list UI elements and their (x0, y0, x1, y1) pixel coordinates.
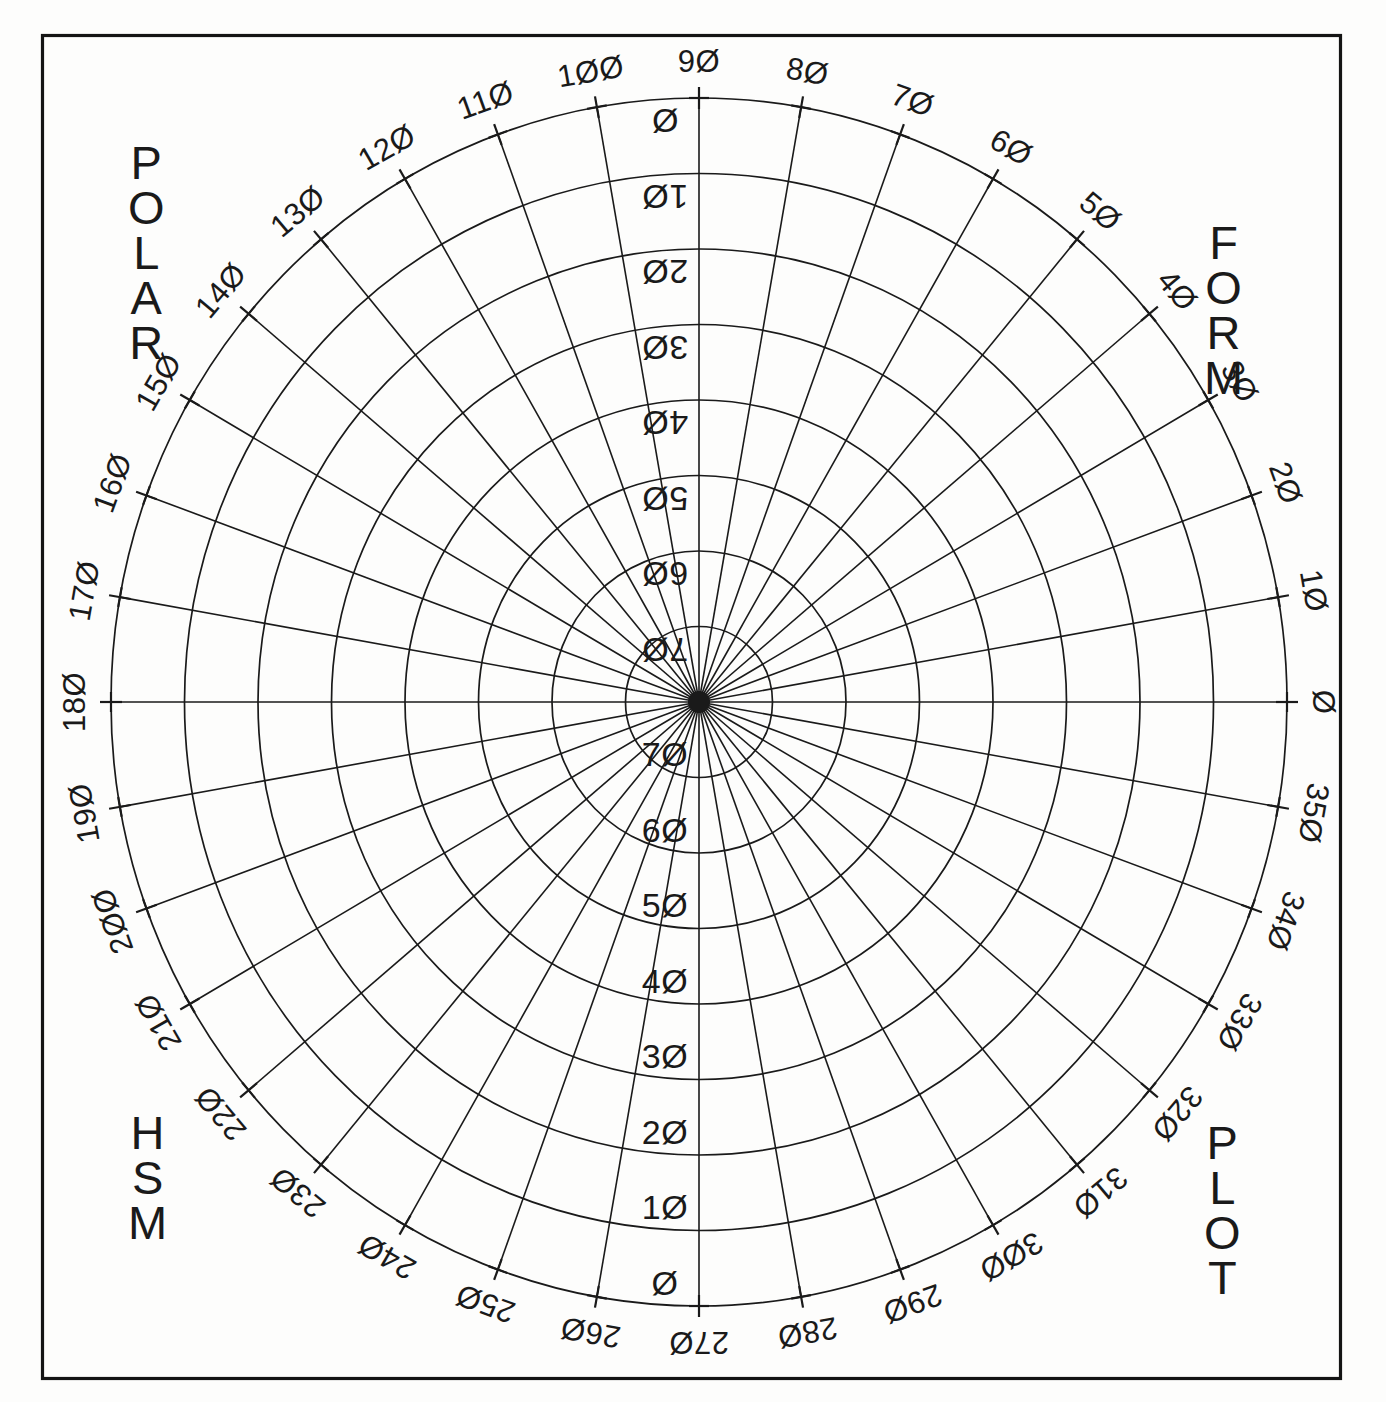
svg-text:16Ø: 16Ø (86, 449, 139, 517)
svg-text:2Ø: 2Ø (642, 1113, 688, 1151)
svg-text:6Ø: 6Ø (642, 555, 688, 593)
corner-label-polar: P O L A R (128, 140, 166, 366)
svg-text:Ø: Ø (652, 102, 679, 140)
svg-text:3ØØ: 3ØØ (973, 1225, 1048, 1289)
svg-text:3Ø: 3Ø (642, 1037, 688, 1075)
svg-text:21Ø: 21Ø (128, 987, 188, 1057)
svg-text:28Ø: 28Ø (775, 1310, 840, 1355)
polar-grid-svg: Ø1Ø2Ø3Ø4Ø5Ø6Ø7Ø8Ø9Ø1ØØ11Ø12Ø13Ø14Ø15Ø16Ø… (0, 0, 1386, 1402)
svg-text:Ø: Ø (652, 1264, 679, 1302)
polar-origin-hub (688, 691, 710, 713)
svg-text:33Ø: 33Ø (1209, 987, 1269, 1057)
svg-text:12Ø: 12Ø (352, 117, 422, 177)
svg-text:1Ø: 1Ø (642, 1188, 688, 1226)
svg-text:25Ø: 25Ø (451, 1277, 519, 1330)
svg-text:23Ø: 23Ø (263, 1160, 332, 1225)
svg-text:2ØØ: 2ØØ (84, 884, 140, 959)
svg-text:9Ø: 9Ø (678, 44, 720, 79)
svg-text:6Ø: 6Ø (984, 122, 1038, 173)
svg-text:3Ø: 3Ø (642, 329, 688, 367)
svg-text:5Ø: 5Ø (1073, 184, 1128, 238)
corner-label-plot: P L O T (1204, 1120, 1242, 1300)
svg-text:31Ø: 31Ø (1066, 1160, 1135, 1225)
svg-text:34Ø: 34Ø (1259, 887, 1312, 955)
svg-text:2Ø: 2Ø (642, 253, 688, 291)
svg-text:4Ø: 4Ø (642, 404, 688, 442)
svg-text:35Ø: 35Ø (1291, 781, 1336, 846)
svg-text:27Ø: 27Ø (669, 1325, 729, 1360)
svg-text:11Ø: 11Ø (452, 74, 518, 127)
svg-text:2Ø: 2Ø (1262, 457, 1309, 509)
svg-text:22Ø: 22Ø (188, 1079, 253, 1148)
svg-text:7Ø: 7Ø (887, 77, 939, 124)
svg-text:1ØØ: 1ØØ (555, 48, 627, 94)
svg-text:5Ø: 5Ø (642, 480, 688, 518)
svg-text:Ø: Ø (1306, 690, 1341, 715)
svg-text:29Ø: 29Ø (878, 1277, 946, 1330)
svg-text:7Ø: 7Ø (642, 735, 688, 773)
corner-label-hsm: H S M (128, 1110, 168, 1245)
svg-text:17Ø: 17Ø (62, 558, 107, 623)
svg-text:32Ø: 32Ø (1145, 1079, 1210, 1148)
polar-plot-sheet: Ø1Ø2Ø3Ø4Ø5Ø6Ø7Ø8Ø9Ø1ØØ11Ø12Ø13Ø14Ø15Ø16Ø… (0, 0, 1386, 1402)
svg-text:26Ø: 26Ø (558, 1310, 623, 1355)
svg-text:1Ø: 1Ø (1293, 567, 1335, 615)
svg-text:8Ø: 8Ø (784, 51, 832, 93)
svg-text:18Ø: 18Ø (57, 672, 92, 732)
svg-text:19Ø: 19Ø (62, 781, 107, 846)
svg-text:7Ø: 7Ø (642, 631, 688, 669)
svg-text:5Ø: 5Ø (642, 886, 688, 924)
svg-text:4Ø: 4Ø (1150, 263, 1204, 318)
svg-text:24Ø: 24Ø (352, 1226, 422, 1286)
svg-text:4Ø: 4Ø (642, 962, 688, 1000)
svg-text:14Ø: 14Ø (188, 256, 253, 325)
corner-label-form: F O R M (1204, 220, 1244, 400)
svg-text:13Ø: 13Ø (263, 179, 332, 244)
svg-text:6Ø: 6Ø (642, 811, 688, 849)
svg-text:1Ø: 1Ø (642, 178, 688, 216)
